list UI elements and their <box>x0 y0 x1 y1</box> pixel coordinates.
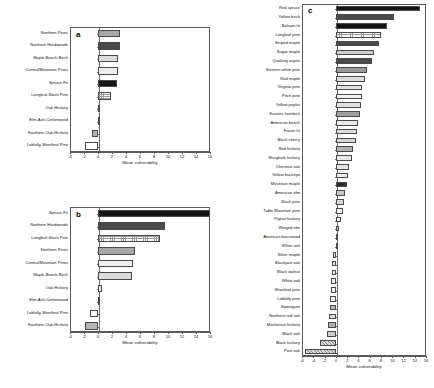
x-tick-label: -6 <box>300 359 304 363</box>
category-label: Yellow buckeye <box>229 173 300 177</box>
bar <box>336 32 382 37</box>
category-label: Black walnut <box>229 270 300 274</box>
x-tick-minor <box>105 152 106 153</box>
x-tick-minor <box>119 332 120 333</box>
bar <box>336 58 373 63</box>
category-label: Northern Pines <box>1 31 68 35</box>
category-label: Longleaf-Slash Pine <box>1 236 68 240</box>
x-tick-label: -4 <box>68 335 72 339</box>
x-tick-label: 6 <box>139 335 141 339</box>
x-tick-minor <box>330 356 331 357</box>
category-label: Oak-Hickory <box>1 286 68 290</box>
x-tick-minor <box>175 152 176 153</box>
x-tick-label: 8 <box>153 335 155 339</box>
category-label: Red maple <box>229 77 300 81</box>
x-tick-minor <box>189 152 190 153</box>
bar <box>331 278 336 283</box>
category-label: Shagbark hickory <box>229 156 300 160</box>
x-tick-minor <box>175 332 176 333</box>
category-label: Longleaf pine <box>229 33 300 37</box>
panel-c-letter: c <box>308 7 312 15</box>
panel-b-letter: b <box>76 211 81 219</box>
category-label: Northern Hardwoods <box>1 43 68 47</box>
bar <box>336 41 379 46</box>
category-label: American elm <box>229 191 300 195</box>
x-tick-minor <box>91 332 92 333</box>
x-tick-label: 10 <box>166 155 171 159</box>
x-tick-label: 12 <box>401 359 406 363</box>
x-tick-label: 14 <box>194 155 199 159</box>
bar <box>336 146 353 151</box>
category-label: American beech <box>229 121 300 125</box>
category-label: Spruce-Fir <box>1 81 68 85</box>
category-label: Northern Hardwoods <box>1 223 68 227</box>
bar <box>98 117 100 125</box>
bar <box>336 76 365 81</box>
bar <box>336 129 357 134</box>
category-label: Fraser fir <box>229 129 300 133</box>
category-label: Blackjack oak <box>229 261 300 265</box>
bar <box>330 305 336 310</box>
category-label: Maple-Beech-Birch <box>1 273 68 277</box>
category-label: White oak <box>229 279 300 283</box>
bar <box>328 322 335 327</box>
panel-a-x-axis-title: Mean vulnerability <box>70 161 210 165</box>
x-tick-minor <box>420 356 421 357</box>
x-tick-minor <box>353 356 354 357</box>
x-tick-minor <box>77 152 78 153</box>
bar <box>98 92 111 100</box>
category-label: Central/Mountain Pines <box>1 261 68 265</box>
panel-a: a Northern PinesNorthern HardwoodsMaple-… <box>0 22 215 182</box>
bar <box>332 270 336 275</box>
category-label: Pitch pine <box>229 94 300 98</box>
bar <box>305 349 336 354</box>
bar <box>333 252 336 257</box>
category-label: Winged elm <box>229 226 300 230</box>
x-tick-label: 2 <box>111 335 113 339</box>
x-tick-label: 10 <box>390 359 395 363</box>
category-label: Slash pine <box>229 200 300 204</box>
x-tick-label: 4 <box>125 155 127 159</box>
bar <box>331 287 336 292</box>
category-label: Balsam fir <box>229 24 300 28</box>
category-label: Oak-Hickory <box>1 106 68 110</box>
category-label: Black hickory <box>229 341 300 345</box>
x-tick-label: 14 <box>194 335 199 339</box>
category-label: Black cherry <box>229 138 300 142</box>
x-tick-label: 10 <box>166 335 171 339</box>
category-label: Silver maple <box>229 253 300 257</box>
bar <box>98 272 132 280</box>
bar <box>85 142 98 150</box>
panel-a-letter: a <box>76 31 80 39</box>
bar <box>90 310 98 318</box>
category-label: Post oak <box>229 349 300 353</box>
bar <box>320 340 336 345</box>
bar <box>336 155 352 160</box>
bar <box>336 102 361 107</box>
x-tick-minor <box>387 356 388 357</box>
bar <box>98 222 165 230</box>
bar <box>336 50 374 55</box>
bar <box>336 94 362 99</box>
bar <box>98 235 160 243</box>
category-label: Southern Oak-Hickory <box>1 323 68 327</box>
bar <box>92 130 98 138</box>
x-tick-minor <box>77 332 78 333</box>
x-tick-label: 0 <box>335 359 337 363</box>
bar <box>329 314 336 319</box>
category-label: Striped maple <box>229 41 300 45</box>
category-label: Northern red oak <box>229 314 300 318</box>
bar <box>332 261 335 266</box>
category-label: Elm-Ash-Cottonwood <box>1 118 68 122</box>
category-label: Maple-Beech-Birch <box>1 56 68 60</box>
x-tick-label: 16 <box>424 359 429 363</box>
category-label: Sweetgum <box>229 305 300 309</box>
x-tick-minor <box>364 356 365 357</box>
category-label: Elm-Ash-Cottonwood <box>1 298 68 302</box>
bar <box>85 322 98 330</box>
bar <box>98 210 210 218</box>
bar <box>98 55 118 63</box>
x-tick-minor <box>398 356 399 357</box>
bar <box>98 67 118 75</box>
category-label: Pignut hickory <box>229 217 300 221</box>
